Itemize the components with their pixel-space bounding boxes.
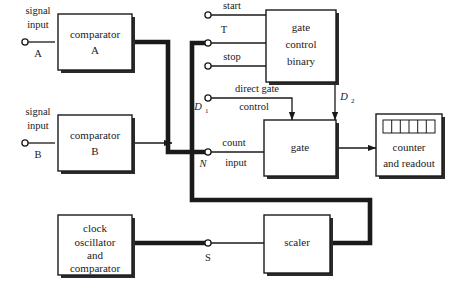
label-d1-sub: 1 [205, 107, 209, 115]
comparator-a-line1: comparator [70, 28, 120, 40]
label-count-input-line1: count [222, 137, 245, 148]
gate-control-binary-line2: control [285, 38, 316, 50]
gate-line1: gate [291, 141, 309, 153]
label-n: N [198, 158, 207, 169]
signal-input-a-line3: A [34, 48, 42, 59]
terminal-start[interactable] [205, 12, 211, 18]
signal-input-b-line1: signal [25, 106, 50, 117]
label-d2-base: D [339, 91, 348, 102]
terminal-s[interactable] [205, 240, 211, 246]
signal-input-a-line2: input [27, 19, 49, 30]
block-scaler: scaler [264, 215, 333, 276]
label-t-terminal: T [221, 24, 228, 35]
block-gate: gate [264, 120, 339, 179]
terminal-d1-direct-gate-control[interactable] [205, 95, 211, 101]
counter-readout-display [383, 120, 435, 133]
comparator-a-line2: A [91, 44, 99, 56]
gate-control-binary-line1: gate [292, 21, 310, 33]
terminal-n-count-input[interactable] [205, 149, 211, 155]
label-direct-gate-line2: control [239, 101, 269, 112]
terminal-t[interactable] [205, 40, 211, 46]
signal-input-b-line3: B [34, 149, 41, 160]
signal-input-b-line2: input [27, 120, 49, 131]
diagram-canvas: comparator A comparator B gate control b… [0, 0, 449, 287]
block-comparator-b: comparator B [58, 115, 135, 174]
signal-input-a-line1: signal [25, 5, 50, 16]
label-stop: stop [223, 51, 241, 62]
comparator-b-line2: B [91, 145, 98, 157]
bus-comparator-a-to-count-input [130, 42, 207, 152]
gate-control-binary-line3: binary [287, 55, 316, 67]
label-count-input-line2: input [225, 157, 247, 168]
scaler-line1: scaler [284, 236, 310, 248]
block-counter-and-readout: counter and readout [376, 114, 445, 179]
terminal-signal-input-b[interactable] [22, 140, 28, 146]
label-direct-gate-line1: direct gate [235, 83, 279, 94]
label-d2-sub: 2 [351, 97, 355, 105]
label-s: S [205, 252, 211, 263]
clock-oscillator-line1: clock [83, 222, 107, 234]
clock-oscillator-line4: comparator [70, 262, 120, 274]
counter-readout-line2: and readout [383, 157, 435, 169]
clock-oscillator-line3: and [87, 249, 103, 261]
label-d2: D 2 [339, 91, 355, 105]
block-comparator-a: comparator A [58, 14, 135, 73]
clock-oscillator-line2: oscillator [75, 236, 116, 248]
terminal-signal-input-a[interactable] [22, 39, 28, 45]
terminal-stop[interactable] [205, 63, 211, 69]
comparator-b-line1: comparator [70, 129, 120, 141]
block-diagram: comparator A comparator B gate control b… [0, 0, 449, 287]
block-gate-control-binary: gate control binary [266, 10, 339, 85]
block-clock-oscillator-and-comparator: clock oscillator and comparator [58, 215, 135, 278]
label-d1: D 1 [193, 101, 209, 115]
counter-readout-line1: counter [393, 141, 426, 153]
label-start: start [223, 0, 241, 11]
label-d1-base: D [193, 101, 202, 112]
